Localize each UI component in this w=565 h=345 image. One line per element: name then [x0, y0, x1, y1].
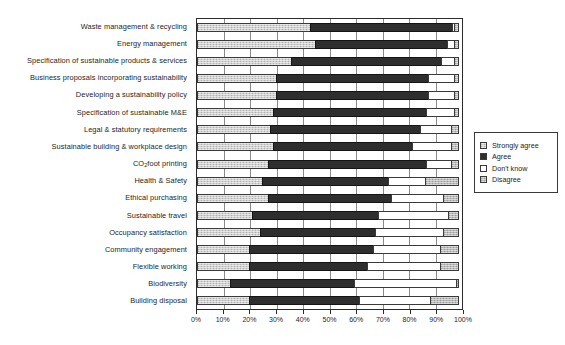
- bar-row: [197, 53, 462, 70]
- stacked-bar[interactable]: [197, 160, 462, 169]
- bar-segment-agree[interactable]: [310, 23, 453, 32]
- stacked-bar[interactable]: [197, 91, 462, 100]
- x-axis-tick: [463, 310, 464, 314]
- legend-item[interactable]: Strongly agree: [480, 141, 553, 150]
- bar-segment-strongly-agree[interactable]: [197, 91, 277, 100]
- bar-segment-disagree[interactable]: [451, 160, 459, 169]
- bar-segment-strongly-agree[interactable]: [197, 279, 231, 288]
- bar-segment-strongly-agree[interactable]: [197, 211, 253, 220]
- bar-segment-disagree[interactable]: [454, 23, 459, 32]
- stacked-bar[interactable]: [197, 177, 462, 186]
- bar-segment-agree[interactable]: [276, 74, 430, 83]
- bar-segment-agree[interactable]: [291, 57, 442, 66]
- bar-segment-strongly-agree[interactable]: [197, 40, 316, 49]
- bar-row: [197, 292, 462, 309]
- bar-segment-disagree[interactable]: [456, 279, 459, 288]
- bar-segment-dont-know[interactable]: [367, 262, 441, 271]
- bar-segment-agree[interactable]: [268, 194, 393, 203]
- bar-segment-agree[interactable]: [249, 245, 374, 254]
- bar-segment-disagree[interactable]: [454, 40, 459, 49]
- legend-item[interactable]: Disagree: [480, 175, 553, 184]
- bar-segment-disagree[interactable]: [454, 57, 459, 66]
- bar-segment-dont-know[interactable]: [428, 74, 455, 83]
- bar-segment-dont-know[interactable]: [375, 228, 444, 237]
- category-label: Biodiversity: [0, 276, 193, 293]
- stacked-bar[interactable]: [197, 125, 462, 134]
- bar-segment-strongly-agree[interactable]: [197, 142, 274, 151]
- x-axis-tick-label: 20%: [242, 316, 256, 323]
- stacked-bar[interactable]: [197, 228, 462, 237]
- bar-segment-strongly-agree[interactable]: [197, 23, 311, 32]
- bar-segment-strongly-agree[interactable]: [197, 245, 250, 254]
- x-axis-tick: [276, 310, 277, 314]
- bar-segment-disagree[interactable]: [443, 194, 459, 203]
- bar-segment-strongly-agree[interactable]: [197, 160, 269, 169]
- bar-segment-strongly-agree[interactable]: [197, 262, 250, 271]
- stacked-bar[interactable]: [197, 40, 462, 49]
- category-label: Community engagement: [0, 241, 193, 258]
- bar-segment-strongly-agree[interactable]: [197, 125, 271, 134]
- bar-segment-strongly-agree[interactable]: [197, 177, 263, 186]
- bar-segment-agree[interactable]: [270, 125, 421, 134]
- bar-row: [197, 241, 462, 258]
- bar-segment-agree[interactable]: [260, 228, 377, 237]
- bar-segment-dont-know[interactable]: [388, 177, 425, 186]
- bar-segment-agree[interactable]: [230, 279, 355, 288]
- category-label: Waste management & recycling: [0, 18, 193, 35]
- bar-segment-strongly-agree[interactable]: [197, 194, 269, 203]
- bar-segment-agree[interactable]: [315, 40, 448, 49]
- bar-segment-dont-know[interactable]: [426, 108, 455, 117]
- stacked-bar[interactable]: [197, 262, 462, 271]
- bar-segment-disagree[interactable]: [451, 142, 459, 151]
- legend-item[interactable]: Agree: [480, 152, 553, 161]
- legend-item[interactable]: Don't know: [480, 164, 553, 173]
- bar-segment-disagree[interactable]: [425, 177, 459, 186]
- bar-segment-strongly-agree[interactable]: [197, 57, 292, 66]
- bar-segment-dont-know[interactable]: [426, 160, 453, 169]
- stacked-bar[interactable]: [197, 279, 462, 288]
- bar-segment-dont-know[interactable]: [354, 279, 457, 288]
- bar-segment-disagree[interactable]: [440, 245, 459, 254]
- bar-segment-dont-know[interactable]: [373, 245, 442, 254]
- bar-segment-agree[interactable]: [273, 142, 413, 151]
- bar-segment-strongly-agree[interactable]: [197, 228, 261, 237]
- bar-segment-strongly-agree[interactable]: [197, 108, 274, 117]
- stacked-bar[interactable]: [197, 142, 462, 151]
- bar-segment-disagree[interactable]: [440, 262, 459, 271]
- x-axis-tick-label: 30%: [269, 316, 283, 323]
- stacked-bar[interactable]: [197, 296, 462, 305]
- bar-segment-dont-know[interactable]: [391, 194, 444, 203]
- stacked-bar[interactable]: [197, 194, 462, 203]
- bar-segment-dont-know[interactable]: [441, 57, 454, 66]
- bar-segment-strongly-agree[interactable]: [197, 296, 250, 305]
- bar-segment-dont-know[interactable]: [420, 125, 452, 134]
- stacked-bar[interactable]: [197, 211, 462, 220]
- bar-segment-dont-know[interactable]: [378, 211, 450, 220]
- bar-segment-agree[interactable]: [268, 160, 427, 169]
- bar-segment-strongly-agree[interactable]: [197, 74, 277, 83]
- stacked-bar[interactable]: [197, 23, 462, 32]
- bar-segment-agree[interactable]: [249, 262, 368, 271]
- bar-segment-agree[interactable]: [273, 108, 427, 117]
- bar-segment-disagree[interactable]: [454, 91, 459, 100]
- bar-segment-disagree[interactable]: [443, 228, 459, 237]
- bar-segment-disagree[interactable]: [430, 296, 459, 305]
- category-axis: Waste management & recyclingEnergy manag…: [0, 18, 193, 310]
- stacked-bar[interactable]: [197, 74, 462, 83]
- stacked-bar[interactable]: [197, 108, 462, 117]
- bar-segment-disagree[interactable]: [454, 108, 459, 117]
- bar-segment-dont-know[interactable]: [412, 142, 452, 151]
- bar-segment-agree[interactable]: [262, 177, 389, 186]
- bar-segment-dont-know[interactable]: [428, 91, 455, 100]
- x-axis: 0%10%20%30%40%50%60%70%80%90%100%: [196, 310, 463, 336]
- bar-segment-disagree[interactable]: [454, 74, 459, 83]
- bar-segment-dont-know[interactable]: [359, 296, 431, 305]
- bar-segment-agree[interactable]: [249, 296, 360, 305]
- stacked-bar[interactable]: [197, 57, 462, 66]
- x-axis-tick-label: 40%: [296, 316, 310, 323]
- bar-segment-disagree[interactable]: [448, 211, 459, 220]
- bar-segment-disagree[interactable]: [451, 125, 459, 134]
- stacked-bar[interactable]: [197, 245, 462, 254]
- bar-segment-agree[interactable]: [276, 91, 430, 100]
- bar-segment-agree[interactable]: [252, 211, 379, 220]
